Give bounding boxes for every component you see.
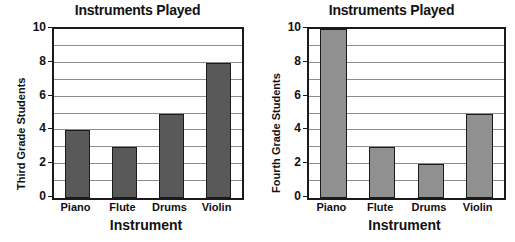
y-tick-mark: [48, 162, 52, 163]
y-tick-mark: [303, 95, 307, 96]
x-tick-label-violin: Violin: [453, 201, 502, 213]
y-tick-mark: [48, 27, 52, 28]
chart-fourth-grade: Instruments Played Fourth Grade Students…: [258, 0, 515, 242]
bar-piano: [65, 130, 90, 198]
bar-series: [309, 29, 504, 198]
y-tick-label: 10: [20, 20, 46, 34]
bar-violin: [206, 63, 231, 198]
x-tick-label-drums: Drums: [146, 201, 193, 213]
x-axis-label: Instrument: [52, 217, 240, 233]
y-tick-label: 6: [20, 88, 46, 102]
plot-area: [52, 27, 244, 200]
x-tick-label-flute: Flute: [356, 201, 405, 213]
y-tick-label: 6: [275, 88, 301, 102]
y-tick-label: 4: [275, 121, 301, 135]
bar-violin: [466, 114, 492, 199]
dual-bar-chart-figure: Instruments Played Third Grade Students …: [0, 0, 515, 242]
y-tick-mark: [48, 196, 52, 197]
y-tick-label: 0: [275, 189, 301, 203]
x-axis-label: Instrument: [307, 217, 502, 233]
y-tick-mark: [48, 95, 52, 96]
plot-area: [307, 27, 506, 200]
y-tick-mark: [48, 61, 52, 62]
y-tick-mark: [303, 128, 307, 129]
x-tick-label-piano: Piano: [52, 201, 99, 213]
y-tick-mark: [48, 128, 52, 129]
y-tick-mark: [303, 196, 307, 197]
bar-series: [54, 29, 242, 198]
bar-piano: [320, 29, 346, 198]
y-tick-mark: [303, 61, 307, 62]
y-tick-label: 8: [20, 54, 46, 68]
chart-title: Instruments Played: [0, 2, 257, 18]
bar-flute: [369, 147, 395, 198]
bar-flute: [112, 147, 137, 198]
y-tick-label: 2: [275, 155, 301, 169]
bar-drums: [418, 164, 444, 198]
y-tick-label: 2: [20, 155, 46, 169]
y-tick-label: 0: [20, 189, 46, 203]
y-tick-label: 8: [275, 54, 301, 68]
y-tick-mark: [303, 27, 307, 28]
bar-drums: [159, 114, 184, 199]
chart-third-grade: Instruments Played Third Grade Students …: [0, 0, 257, 242]
x-tick-label-drums: Drums: [405, 201, 454, 213]
x-tick-label-piano: Piano: [307, 201, 356, 213]
y-tick-label: 4: [20, 121, 46, 135]
y-tick-label: 10: [275, 20, 301, 34]
x-tick-label-violin: Violin: [193, 201, 240, 213]
y-tick-mark: [303, 162, 307, 163]
x-tick-label-flute: Flute: [99, 201, 146, 213]
chart-title: Instruments Played: [258, 2, 515, 18]
